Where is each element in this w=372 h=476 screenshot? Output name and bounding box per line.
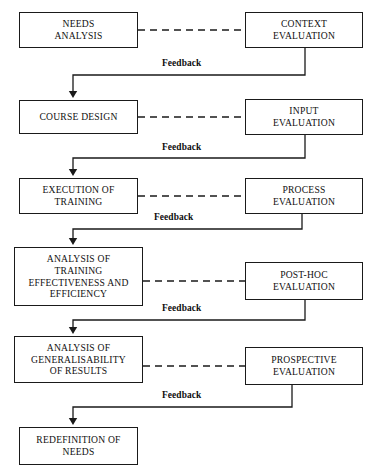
evaluation-box-context-evaluation[interactable]: CONTEXT EVALUATION [245,12,363,48]
evaluation-box-input-evaluation[interactable]: INPUT EVALUATION [245,99,363,135]
node-label: ANALYSIS OF TRAINING EFFECTIVENESS AND E… [25,253,131,299]
node-label: EXECUTION OF TRAINING [40,184,118,207]
feedback-context-to-course [69,48,305,98]
process-box-needs-analysis[interactable]: NEEDS ANALYSIS [19,12,138,48]
feedback-label-1: Feedback [160,58,203,68]
flowchart-canvas: NEEDS ANALYSISCOURSE DESIGNEXECUTION OF … [0,0,372,476]
node-label: COURSE DESIGN [36,111,120,123]
evaluation-box-post-hoc-evaluation[interactable]: POST-HOC EVALUATION [245,262,363,300]
arrowhead-icon [69,327,77,334]
arrowhead-icon [69,418,77,425]
dashed-connector-group [138,30,245,366]
node-label: CONTEXT EVALUATION [270,18,338,41]
node-label: INPUT EVALUATION [270,105,338,128]
process-box-execution-of-training[interactable]: EXECUTION OF TRAINING [19,178,138,214]
feedback-path [73,48,305,92]
feedback-label-4: Feedback [160,303,203,313]
feedback-path [73,135,305,170]
feedback-label-3: Feedback [152,212,195,222]
connector-layer [0,0,372,476]
node-label: ANALYSIS OF GENERALISABILITY OF RESULTS [28,342,129,377]
node-label: REDEFINITION OF NEEDS [33,434,123,457]
evaluation-box-prospective-evaluation[interactable]: PROSPECTIVE EVALUATION [245,347,363,385]
arrowhead-icon [69,169,77,176]
process-box-redefinition-of-needs[interactable]: REDEFINITION OF NEEDS [19,427,138,465]
arrowhead-icon [69,238,77,245]
feedback-label-2: Feedback [160,142,203,152]
feedback-label-5: Feedback [160,390,203,400]
process-box-analysis-of-training-effectiveness[interactable]: ANALYSIS OF TRAINING EFFECTIVENESS AND E… [14,247,143,306]
evaluation-box-process-evaluation[interactable]: PROCESS EVALUATION [245,178,363,214]
node-label: PROSPECTIVE EVALUATION [268,354,340,377]
node-label: PROCESS EVALUATION [270,184,338,207]
node-label: POST-HOC EVALUATION [270,269,338,292]
node-label: NEEDS ANALYSIS [51,18,105,41]
process-box-analysis-of-generalisability[interactable]: ANALYSIS OF GENERALISABILITY OF RESULTS [14,336,143,383]
arrowhead-icon [69,91,77,98]
process-box-course-design[interactable]: COURSE DESIGN [19,100,138,134]
